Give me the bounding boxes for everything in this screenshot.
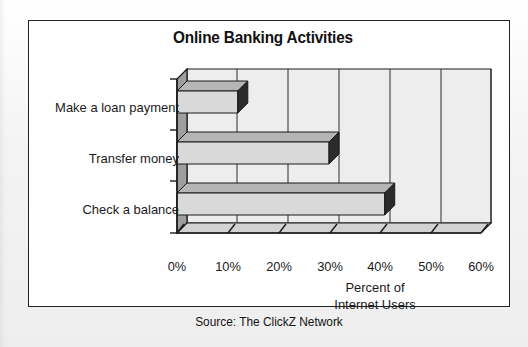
- x-tick-label-50: 50%: [409, 259, 453, 274]
- bar-make-a-loan-payment: [177, 81, 248, 113]
- category-label-check-a-balance: Check a balance: [6, 202, 179, 217]
- bar-transfer-money: [177, 132, 339, 164]
- x-tick-label-20: 20%: [257, 259, 301, 274]
- x-tick-label-0: 0%: [155, 259, 199, 274]
- x-axis-title-line-2: Internet Users: [231, 296, 519, 313]
- x-tick-label-30: 30%: [308, 259, 352, 274]
- figure-frame: Online Banking Activities: [28, 20, 510, 307]
- plot-area: Make a loan payment Transfer money Check…: [29, 21, 511, 308]
- x-tick-label-60: 60%: [459, 259, 503, 274]
- x-tick-label-40: 40%: [358, 259, 402, 274]
- bar-check-a-balance: [177, 183, 395, 215]
- x-axis-title-line-1: Percent of: [231, 279, 519, 296]
- source-caption: Source: The ClickZ Network: [40, 315, 498, 329]
- category-label-transfer-money: Transfer money: [6, 151, 179, 166]
- x-tick-label-10: 10%: [206, 259, 250, 274]
- x-axis-title: Percent of Internet Users: [231, 279, 519, 313]
- category-label-make-a-loan-payment: Make a loan payment: [6, 100, 179, 115]
